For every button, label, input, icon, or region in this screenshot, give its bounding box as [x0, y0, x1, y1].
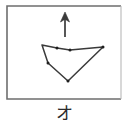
sketch-polygon-vertex-dots [47, 46, 105, 83]
figure-caption-label: オ [0, 100, 129, 127]
polygon-vertex-dot [67, 80, 70, 83]
up-arrow-group [61, 12, 70, 37]
figure-panel: オ [0, 0, 129, 127]
polygon-vertex-dot [69, 49, 72, 52]
polygon-vertex-dot [56, 47, 59, 50]
polygon-vertex-dot [102, 46, 105, 49]
sketch-polygon-group [42, 45, 105, 83]
polygon-vertex-dot [47, 62, 50, 65]
sketch-polygon-outline-icon [42, 45, 103, 81]
